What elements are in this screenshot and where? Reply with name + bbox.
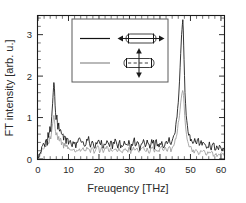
y-axis-label: FT intensity [arb. u.] xyxy=(3,39,15,136)
x-tick-label: 60 xyxy=(216,164,227,175)
x-tick-label-group: 0102030405060 xyxy=(35,164,226,175)
y-tick-label: 0 xyxy=(27,154,32,165)
x-tick-label: 40 xyxy=(155,164,166,175)
x-tick-label: 0 xyxy=(35,164,40,175)
x-tick-label: 30 xyxy=(124,164,135,175)
polarization-legend-inset xyxy=(72,19,168,82)
inset-frame xyxy=(72,19,168,82)
figure-container: Freuqency [THz] FT intensity [arb. u.] 0… xyxy=(0,0,246,203)
y-tick-label: 1 xyxy=(27,112,32,123)
x-tick-label: 50 xyxy=(185,164,196,175)
x-tick-label: 20 xyxy=(94,164,105,175)
y-tick-label: 2 xyxy=(27,71,32,82)
y-tick-label: 3 xyxy=(27,29,32,40)
x-axis-label: Freuqency [THz] xyxy=(87,182,168,194)
x-tick-label: 10 xyxy=(63,164,74,175)
y-tick-label-group: 0123 xyxy=(27,29,32,164)
ft-intensity-spectrum-chart: Freuqency [THz] FT intensity [arb. u.] 0… xyxy=(0,0,246,203)
